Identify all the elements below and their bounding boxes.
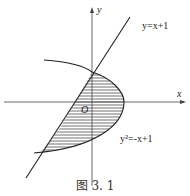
- shaded-region: [30, 75, 130, 150]
- parabola-label: y²=-x+1: [120, 133, 153, 144]
- line-curve: [26, 17, 130, 178]
- x-arrow-icon: [180, 100, 186, 104]
- y-arrow-icon: [90, 7, 94, 13]
- figure-caption: 图 3. 1: [0, 176, 190, 193]
- x-axis-label: x: [177, 88, 181, 99]
- y-axis-label: y: [97, 4, 101, 15]
- figure: y x O y=x+1 y²=-x+1 图 3. 1: [0, 0, 190, 196]
- parabola-curve: [34, 60, 124, 153]
- origin-label: O: [81, 104, 88, 115]
- line-label: y=x+1: [142, 20, 168, 31]
